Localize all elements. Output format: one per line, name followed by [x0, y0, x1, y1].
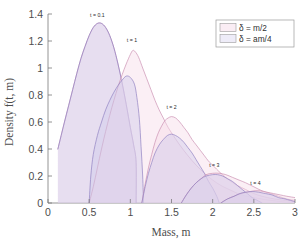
- legend-swatch-delta-am-4: [220, 35, 236, 43]
- x-tick-label: 3: [292, 206, 298, 218]
- curve-annotation: t = 4: [250, 180, 260, 186]
- legend-swatch-delta-m-2: [220, 24, 236, 32]
- y-tick-label: 1.4: [28, 8, 43, 20]
- curve-annotation: t = 0.1: [90, 12, 105, 18]
- y-tick-label: 0: [37, 197, 43, 209]
- curve-annotation: t = 1: [127, 37, 137, 43]
- density-chart: 00.511.522.5300.20.40.60.811.21.4 t = 0.…: [0, 0, 303, 245]
- legend-label-delta-m-2: δ = m/2: [239, 23, 267, 33]
- x-tick-label: 2: [210, 206, 216, 218]
- y-tick-label: 0.4: [28, 143, 43, 155]
- legend[interactable]: δ = m/2 δ = am/4: [216, 20, 294, 47]
- y-tick-label: 0.2: [28, 170, 43, 182]
- x-tick-label: 1.5: [164, 206, 179, 218]
- y-tick-label: 1.2: [28, 35, 43, 47]
- y-axis-label: Density f(t, m): [3, 78, 16, 146]
- x-tick-label: 0: [45, 206, 51, 218]
- x-tick-label: 1: [127, 206, 133, 218]
- x-tick-label: 2.5: [247, 206, 262, 218]
- curve-annotation: t = 3: [209, 162, 219, 168]
- x-axis-label: Mass, m: [152, 226, 191, 239]
- y-tick-label: 0.6: [28, 116, 43, 128]
- y-tick-label: 1: [37, 62, 43, 74]
- legend-label-delta-am-4: δ = am/4: [239, 34, 272, 44]
- x-tick-label: 0.5: [82, 206, 97, 218]
- curve-annotation: t = 2: [166, 104, 176, 110]
- y-tick-label: 0.8: [28, 89, 43, 101]
